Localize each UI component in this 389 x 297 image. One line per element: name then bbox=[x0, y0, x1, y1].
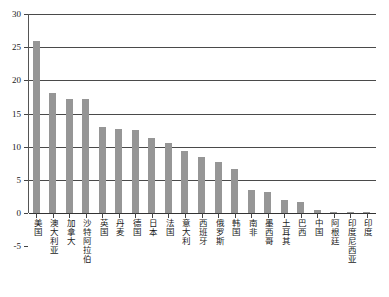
x-tick-mark bbox=[36, 213, 37, 218]
x-tick-mark bbox=[301, 213, 302, 218]
y-tick-label: 25 bbox=[12, 43, 21, 52]
x-axis-label: 中国 bbox=[313, 219, 322, 237]
bars-container bbox=[28, 14, 375, 213]
x-axis-label: 意大利 bbox=[180, 219, 189, 246]
x-tick-mark bbox=[86, 213, 87, 218]
bar bbox=[99, 127, 106, 213]
bar bbox=[82, 99, 89, 213]
bar bbox=[181, 151, 188, 213]
x-axis-labels: 美国澳大利亚加拿大沙特阿拉伯英国丹麦德国日本法国意大利西班牙俄罗斯韩国南非墨西哥… bbox=[28, 219, 375, 297]
bar bbox=[132, 130, 139, 213]
x-tick-mark bbox=[235, 213, 236, 218]
x-axis-label: 加拿大 bbox=[65, 219, 74, 246]
bar bbox=[33, 41, 40, 213]
x-tick-mark bbox=[350, 213, 351, 218]
y-axis: -5051015202530 bbox=[0, 0, 28, 297]
x-axis-label: 澳大利亚 bbox=[48, 219, 57, 255]
x-axis-label: 巴西 bbox=[296, 219, 305, 237]
x-axis-label: 丹麦 bbox=[114, 219, 123, 237]
y-tick-label: 20 bbox=[12, 76, 21, 85]
x-tick-mark bbox=[102, 213, 103, 218]
x-tick-mark bbox=[218, 213, 219, 218]
x-axis-label: 英国 bbox=[98, 219, 107, 237]
x-tick-mark bbox=[168, 213, 169, 218]
bar bbox=[66, 99, 73, 213]
x-tick-mark bbox=[53, 213, 54, 218]
x-tick-mark bbox=[334, 213, 335, 218]
bar bbox=[148, 138, 155, 213]
x-axis-label: 法国 bbox=[164, 219, 173, 237]
x-tick-mark bbox=[185, 213, 186, 218]
x-axis-label: 西班牙 bbox=[197, 219, 206, 246]
x-tick-mark bbox=[284, 213, 285, 218]
x-axis-label: 南非 bbox=[247, 219, 256, 237]
x-tick-mark bbox=[119, 213, 120, 218]
x-tick-mark bbox=[367, 213, 368, 218]
x-axis-label: 土耳其 bbox=[280, 219, 289, 246]
bar bbox=[231, 169, 238, 213]
bar bbox=[248, 190, 255, 213]
x-tick-mark bbox=[268, 213, 269, 218]
bar bbox=[115, 129, 122, 213]
x-axis-label: 俄罗斯 bbox=[214, 219, 223, 246]
y-tick-label: 0 bbox=[17, 209, 22, 218]
x-tick-mark bbox=[135, 213, 136, 218]
y-tick-label: 30 bbox=[12, 10, 21, 19]
y-tick-label: -5 bbox=[14, 242, 22, 251]
x-axis-label: 沙特阿拉伯 bbox=[81, 219, 90, 264]
x-tick-mark bbox=[251, 213, 252, 218]
x-tick-mark bbox=[317, 213, 318, 218]
x-axis-label: 墨西哥 bbox=[263, 219, 272, 246]
x-axis-label: 美国 bbox=[32, 219, 41, 237]
y-tick-label: 15 bbox=[12, 109, 21, 118]
x-tick-mark bbox=[202, 213, 203, 218]
bar bbox=[281, 200, 288, 213]
y-tick-label: 10 bbox=[12, 142, 21, 151]
bar bbox=[49, 93, 56, 213]
x-tick-mark bbox=[152, 213, 153, 218]
bar bbox=[297, 202, 304, 213]
bar bbox=[198, 157, 205, 213]
x-axis-label: 韩国 bbox=[230, 219, 239, 237]
bar bbox=[264, 192, 271, 213]
x-axis-label: 印度 bbox=[362, 219, 371, 237]
x-tick-mark bbox=[69, 213, 70, 218]
bar bbox=[165, 143, 172, 213]
bar-chart: -5051015202530 美国澳大利亚加拿大沙特阿拉伯英国丹麦德国日本法国意… bbox=[0, 0, 389, 297]
x-axis-label: 阿根廷 bbox=[329, 219, 338, 246]
bar bbox=[215, 162, 222, 213]
x-axis-label: 印度尼西亚 bbox=[346, 219, 355, 264]
x-axis-label: 日本 bbox=[147, 219, 156, 237]
x-axis-label: 德国 bbox=[131, 219, 140, 237]
y-tick-label: 5 bbox=[17, 175, 22, 184]
